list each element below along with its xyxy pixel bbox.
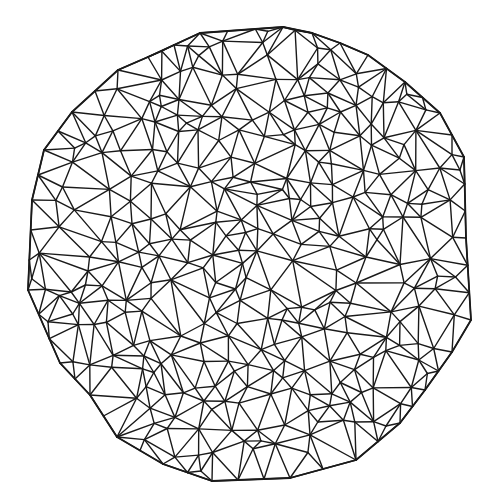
mesh-edge [216,300,240,312]
mesh-edge [161,107,177,116]
mesh-edge [228,324,237,336]
mesh-edge [175,429,199,457]
mesh-edge [310,394,332,395]
mesh-edge [364,170,366,192]
mesh-edge [386,337,399,345]
mesh-edge [298,48,318,80]
mesh-edge [213,250,239,255]
mesh-edge [174,45,188,46]
mesh-edge [95,91,104,116]
mesh-edge [183,388,195,393]
mesh-edge [345,312,391,317]
mesh-edge [308,112,319,124]
mesh-edge [161,100,179,107]
mesh-edge [134,345,144,356]
mesh-edge [305,151,310,183]
mesh-edge [180,211,217,230]
mesh-edge [102,151,121,153]
mesh-edge [78,325,89,365]
mesh-edge [372,97,383,103]
mesh-edge [217,189,224,211]
mesh-edge [201,453,213,472]
mesh-edge [340,74,356,80]
mesh-edge [434,349,452,353]
mesh-edge [391,312,400,322]
mesh-edge [359,87,373,97]
mesh-edge [213,255,216,283]
mesh-edge [264,135,283,137]
mesh-edge [309,78,328,93]
mesh-edge [416,168,440,171]
mesh-edge [104,89,117,116]
mesh-edge [231,157,255,163]
mesh-edge [293,261,302,308]
mesh-edge [60,362,73,363]
mesh-edge [237,324,261,350]
mesh-edge [222,75,236,89]
mesh-edge [171,280,181,336]
mesh-edge [399,145,404,159]
mesh-edge [318,64,340,80]
mesh-edge [374,422,386,426]
mesh-edge [257,205,258,228]
mesh-edge [236,79,276,88]
mesh-edge [311,207,320,219]
mesh-edge [268,318,282,320]
mesh-edge [142,119,153,150]
mesh-edge [336,270,337,290]
mesh-edge [188,240,191,263]
mesh-edge [112,367,143,369]
mesh-edge [236,74,237,88]
mesh-edge [305,124,319,150]
mesh-edge [258,394,271,430]
mesh-edge [372,138,385,145]
mesh-edge [380,174,391,194]
mesh-edge [289,199,300,200]
mesh-edge [311,162,319,183]
mesh-edge [211,182,224,189]
mesh-edge [125,311,142,312]
mesh-edge [130,183,151,201]
mesh-edge [118,70,162,80]
mesh-edge [450,200,465,211]
mesh-edge [231,157,233,177]
mesh-edge [438,276,456,277]
mesh-edge [273,220,292,234]
mesh-edge [255,29,262,43]
mesh-edge [219,117,222,141]
mesh-edge [237,300,240,323]
mesh-edge [269,112,294,130]
mesh-edge [456,277,470,293]
mesh-edge [258,425,285,430]
mesh-edge [163,457,175,464]
mesh-edge [310,435,323,469]
mesh-edge [144,440,163,464]
mesh-edge [419,306,434,348]
mesh-edge [319,162,333,185]
mesh-edge [90,367,112,395]
mesh-edge [109,176,131,189]
mesh-edge [102,242,116,243]
mesh-edge [355,422,356,460]
mesh-edge [404,283,414,288]
mesh-edge [204,386,215,401]
mesh-edge [90,355,113,365]
mesh-edge [199,455,201,471]
mesh-edge [142,267,151,282]
mesh-edge [139,252,142,267]
mesh-edge [302,307,315,310]
mesh-edge [39,227,59,253]
mesh-edge [223,41,238,74]
mesh-edge [239,394,271,403]
mesh-edge [311,183,333,203]
mesh-edge [151,183,152,219]
mesh-edge [177,115,202,116]
mesh-edge [330,333,347,362]
mesh-edge [319,218,320,231]
mesh-edge [143,356,144,369]
mesh-edge [304,96,308,113]
mesh-edge [117,70,118,89]
mesh-edge [155,115,177,122]
mesh-edge [251,179,287,183]
mesh-edge [360,354,373,357]
